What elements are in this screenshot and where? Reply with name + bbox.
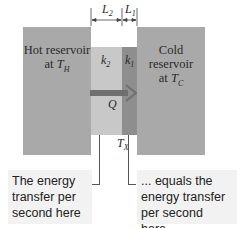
- l2-label: L2: [102, 2, 113, 18]
- left-leader-line: [99, 135, 100, 185]
- caption-left: The energy transfer per second here ...: [8, 170, 92, 224]
- l1-label: L1: [125, 2, 136, 18]
- caption-right: ... equals the energy transfer per secon…: [137, 170, 237, 224]
- dimension-markers: [0, 0, 241, 50]
- right-leader-tick: [128, 184, 136, 185]
- cold-reservoir-label: Cold reservoir at TC: [137, 43, 205, 91]
- right-leader-line: [128, 135, 129, 185]
- k1-label: k1: [125, 53, 134, 69]
- left-leader-tick: [91, 184, 100, 185]
- tx-label: TX: [117, 136, 129, 152]
- k2-label: k2: [101, 53, 110, 69]
- q-label: Q: [108, 97, 117, 112]
